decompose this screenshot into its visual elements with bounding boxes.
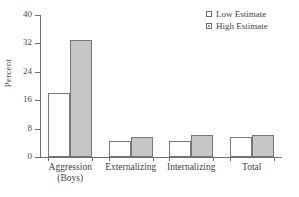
bar-high-estimate	[131, 137, 153, 157]
x-axis-category-label: Internalizing	[161, 162, 222, 173]
legend-item: High Estimate	[206, 20, 268, 31]
y-axis-tick-label: 40	[23, 9, 32, 19]
y-axis-tick: 0	[35, 157, 40, 158]
x-axis-category-label: Externalizing	[101, 162, 162, 173]
x-axis-category-label: Aggression(Boys)	[40, 162, 101, 184]
bar-high-estimate	[191, 135, 213, 157]
y-axis-tick: 8	[35, 129, 40, 130]
y-axis-tick-label: 24	[23, 66, 32, 76]
legend-label: Low Estimate	[216, 9, 266, 19]
x-axis-line	[40, 157, 282, 158]
x-axis-tick	[92, 157, 93, 161]
y-axis-tick-label: 16	[23, 94, 32, 104]
legend-swatch-high-icon	[206, 23, 212, 29]
legend-swatch-low-icon	[206, 11, 212, 17]
bar-chart-figure: Percent 0816243240 Aggression(Boys)Exter…	[0, 0, 299, 197]
x-axis-tick	[230, 157, 231, 161]
legend-label: High Estimate	[216, 21, 268, 31]
category-label-line: Aggression	[49, 162, 92, 172]
category-label-line: Externalizing	[105, 162, 156, 172]
chart-legend: Low EstimateHigh Estimate	[206, 8, 268, 32]
category-label-line: Internalizing	[167, 162, 216, 172]
category-label-line: Total	[242, 162, 261, 172]
y-axis-line	[40, 15, 41, 157]
y-axis-tick: 24	[35, 72, 40, 73]
x-axis-category-label: Total	[222, 162, 283, 173]
bar-high-estimate	[70, 40, 92, 157]
y-axis-label: Percent	[3, 43, 13, 103]
x-axis-tick	[169, 157, 170, 161]
x-axis-tick	[213, 157, 214, 161]
bar-low-estimate	[169, 141, 191, 157]
bar-low-estimate	[48, 93, 70, 157]
bar-low-estimate	[109, 141, 131, 157]
plot-area: 0816243240 Aggression(Boys)Externalizing…	[40, 15, 282, 157]
y-axis-tick-label: 32	[23, 37, 32, 47]
x-axis-tick	[48, 157, 49, 161]
bar-low-estimate	[230, 137, 252, 157]
x-axis-tick	[109, 157, 110, 161]
x-axis-tick	[274, 157, 275, 161]
y-axis-tick-label: 8	[28, 123, 33, 133]
y-axis-tick: 40	[35, 15, 40, 16]
y-axis-tick-label: 0	[28, 151, 33, 161]
legend-item: Low Estimate	[206, 8, 268, 19]
y-axis-tick: 16	[35, 100, 40, 101]
x-axis-tick	[153, 157, 154, 161]
y-axis-tick: 32	[35, 43, 40, 44]
category-label-line: (Boys)	[40, 173, 101, 184]
bar-high-estimate	[252, 135, 274, 157]
